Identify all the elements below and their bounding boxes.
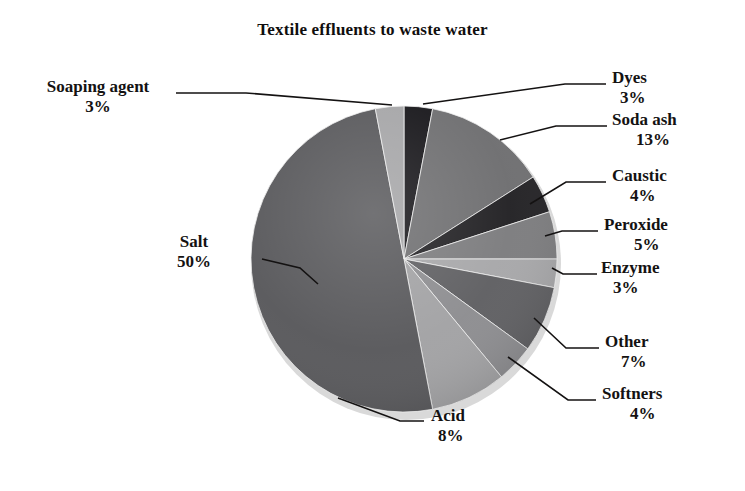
slice-label-acid-percent: 8% <box>431 426 465 446</box>
slice-label-peroxide: Peroxide 5% <box>604 215 668 254</box>
slice-label-salt-name: Salt <box>148 232 240 252</box>
slice-label-softners-name: Softners <box>602 384 662 404</box>
slice-label-salt-percent: 50% <box>148 252 240 272</box>
slice-label-soaping-agent-percent: 3% <box>22 97 174 117</box>
slice-label-soda-ash-name: Soda ash <box>612 110 677 130</box>
slice-label-soda-ash-percent: 13% <box>612 130 677 150</box>
slice-label-other-name: Other <box>605 332 648 352</box>
slice-label-other-percent: 7% <box>605 352 648 372</box>
leader-line-soaping-agent <box>176 93 392 105</box>
leader-line-dyes <box>423 84 606 104</box>
slice-label-enzyme-percent: 3% <box>601 278 660 298</box>
slice-label-softners-percent: 4% <box>602 404 662 424</box>
slice-label-acid-name: Acid <box>431 406 465 426</box>
slice-label-caustic-name: Caustic <box>612 166 667 186</box>
slice-label-soaping-agent-name: Soaping agent <box>22 77 174 97</box>
pie-chart-figure: Textile effluents to waste water <box>0 0 745 491</box>
slice-label-acid: Acid 8% <box>431 406 465 445</box>
slice-label-salt: Salt 50% <box>148 232 240 271</box>
slice-label-soda-ash: Soda ash 13% <box>612 110 677 149</box>
slice-label-enzyme: Enzyme 3% <box>601 258 660 297</box>
pie-slices-group <box>251 106 557 412</box>
slice-label-caustic: Caustic 4% <box>612 166 667 205</box>
slice-label-soaping-agent: Soaping agent 3% <box>22 77 174 116</box>
slice-label-other: Other 7% <box>605 332 648 371</box>
slice-label-softners: Softners 4% <box>602 384 662 423</box>
leader-line-soda-ash <box>500 126 607 140</box>
slice-label-dyes-name: Dyes <box>612 68 647 88</box>
slice-label-dyes-percent: 3% <box>612 88 647 108</box>
slice-label-peroxide-name: Peroxide <box>604 215 668 235</box>
slice-label-caustic-percent: 4% <box>612 186 667 206</box>
slice-label-dyes: Dyes 3% <box>612 68 647 107</box>
slice-label-peroxide-percent: 5% <box>604 235 668 255</box>
slice-label-enzyme-name: Enzyme <box>601 258 660 278</box>
